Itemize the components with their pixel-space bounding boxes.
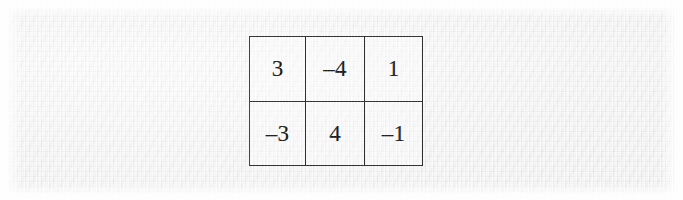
matrix-cell-r0c0: 3 <box>250 37 306 102</box>
matrix-cell-value: 4 <box>329 122 341 145</box>
matrix-cell-value: –3 <box>266 122 289 145</box>
matrix-cell-value: –4 <box>323 57 346 80</box>
matrix-row-0: 3 –4 1 <box>250 37 423 102</box>
matrix-cell-r0c1: –4 <box>306 37 365 102</box>
matrix-row-1: –3 4 –1 <box>250 101 423 166</box>
matrix-cell-r1c1: 4 <box>306 101 365 166</box>
matrix-cell-value: 3 <box>272 57 284 80</box>
scanned-page: 3 –4 1 –3 4 –1 <box>0 0 683 200</box>
matrix-body: 3 –4 1 –3 4 –1 <box>250 37 423 166</box>
matrix-cell-r0c2: 1 <box>365 37 423 102</box>
matrix-cell-value: 1 <box>388 57 400 80</box>
matrix-grid: 3 –4 1 –3 4 –1 <box>249 36 423 166</box>
matrix-cell-value: –1 <box>382 122 405 145</box>
matrix-cell-r1c0: –3 <box>250 101 306 166</box>
matrix-cell-r1c2: –1 <box>365 101 423 166</box>
